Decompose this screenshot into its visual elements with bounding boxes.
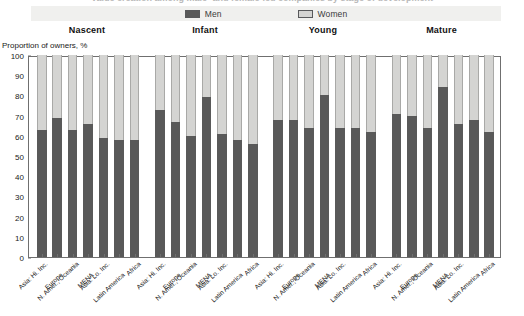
y-tick-label: 30 bbox=[0, 193, 24, 202]
stacked-bar bbox=[155, 55, 165, 257]
stacked-bar bbox=[304, 55, 314, 257]
x-tick-mark bbox=[325, 254, 326, 257]
bar-segment-men bbox=[438, 87, 448, 257]
x-tick-mark bbox=[237, 254, 238, 257]
stage-header-infant: Infant bbox=[146, 25, 264, 37]
chart-title: Value creation among male- and female-le… bbox=[0, 0, 524, 3]
bar-segment-men bbox=[171, 122, 181, 257]
x-tick-mark bbox=[371, 254, 372, 257]
legend-swatch-women-icon bbox=[298, 10, 313, 18]
plot-area bbox=[28, 56, 501, 258]
stacked-bar bbox=[366, 55, 376, 257]
stacked-bar bbox=[37, 55, 47, 257]
bar-segment-men bbox=[366, 132, 376, 257]
y-tick-label: 10 bbox=[0, 233, 24, 242]
stacked-bar bbox=[202, 55, 212, 257]
stacked-bar bbox=[186, 55, 196, 257]
x-tick-mark bbox=[474, 254, 475, 257]
x-tick-mark bbox=[104, 254, 105, 257]
bar-segment-men bbox=[351, 128, 361, 257]
stacked-bar bbox=[52, 55, 62, 257]
x-tick-mark bbox=[191, 254, 192, 257]
stage-header-nascent: Nascent bbox=[28, 25, 146, 37]
stacked-bar bbox=[171, 55, 181, 257]
stacked-bar bbox=[438, 55, 448, 257]
stacked-bar bbox=[351, 55, 361, 257]
bar-segment-men bbox=[52, 118, 62, 257]
x-tick-mark bbox=[356, 254, 357, 257]
bar-segment-men bbox=[37, 130, 47, 257]
y-axis-title: Proportion of owners, % bbox=[2, 41, 87, 50]
x-tick-mark bbox=[222, 254, 223, 257]
stage-header-mature: Mature bbox=[382, 25, 501, 37]
bar-segment-men bbox=[289, 120, 299, 257]
x-axis-label: Africa bbox=[124, 260, 141, 277]
stacked-bar bbox=[407, 55, 417, 257]
bar-segment-men bbox=[407, 116, 417, 257]
bar-segment-men bbox=[484, 132, 494, 257]
y-tick-label: 90 bbox=[0, 72, 24, 81]
x-axis-label: Africa bbox=[361, 260, 378, 277]
stacked-bar bbox=[469, 55, 479, 257]
x-tick-mark bbox=[489, 254, 490, 257]
x-tick-mark bbox=[135, 254, 136, 257]
bar-segment-men bbox=[68, 130, 78, 257]
bar-segment-men bbox=[114, 140, 124, 257]
x-tick-mark bbox=[443, 254, 444, 257]
stacked-bar bbox=[289, 55, 299, 257]
legend-label-men: Men bbox=[205, 9, 222, 19]
x-tick-mark bbox=[412, 254, 413, 257]
stacked-bar bbox=[320, 55, 330, 257]
stacked-bar bbox=[484, 55, 494, 257]
bar-segment-men bbox=[392, 114, 402, 257]
legend-item-men: Men bbox=[185, 9, 222, 19]
x-tick-mark bbox=[42, 254, 43, 257]
bar-segment-men bbox=[233, 140, 243, 257]
stacked-bar bbox=[99, 55, 109, 257]
stage-header-young: Young bbox=[264, 25, 382, 37]
x-tick-mark bbox=[278, 254, 279, 257]
x-tick-mark bbox=[458, 254, 459, 257]
bar-segment-men bbox=[320, 95, 330, 257]
bar-segment-men bbox=[335, 128, 345, 257]
stacked-bar bbox=[130, 55, 140, 257]
legend-label-women: Women bbox=[318, 9, 348, 19]
bar-segment-men bbox=[83, 124, 93, 257]
bar-segment-men bbox=[469, 120, 479, 257]
stacked-bar bbox=[273, 55, 283, 257]
x-axis-label: Africa bbox=[479, 260, 496, 277]
stacked-bar bbox=[454, 55, 464, 257]
y-tick-label: 0 bbox=[0, 254, 24, 263]
x-tick-mark bbox=[340, 254, 341, 257]
bar-segment-men bbox=[202, 97, 212, 257]
x-tick-mark bbox=[309, 254, 310, 257]
bar-segment-men bbox=[186, 136, 196, 257]
bar-segment-men bbox=[273, 120, 283, 257]
y-tick-label: 70 bbox=[0, 112, 24, 121]
x-tick-mark bbox=[427, 254, 428, 257]
y-tick-label: 100 bbox=[0, 52, 24, 61]
stacked-bar bbox=[217, 55, 227, 257]
x-tick-mark bbox=[160, 254, 161, 257]
chart-legend: Men Women bbox=[31, 6, 501, 21]
stacked-bar bbox=[335, 55, 345, 257]
stacked-bar bbox=[392, 55, 402, 257]
bar-segment-men bbox=[99, 138, 109, 257]
stacked-bar bbox=[114, 55, 124, 257]
stacked-bar bbox=[248, 55, 258, 257]
x-tick-mark bbox=[119, 254, 120, 257]
stacked-bar bbox=[233, 55, 243, 257]
x-tick-mark bbox=[57, 254, 58, 257]
bar-segment-men bbox=[130, 140, 140, 257]
y-tick-label: 20 bbox=[0, 213, 24, 222]
legend-swatch-men-icon bbox=[185, 10, 200, 18]
y-tick-label: 60 bbox=[0, 132, 24, 141]
bar-segment-men bbox=[248, 144, 258, 257]
chart-root: Value creation among male- and female-le… bbox=[0, 0, 524, 316]
x-tick-mark bbox=[88, 254, 89, 257]
x-tick-mark bbox=[206, 254, 207, 257]
y-tick-label: 50 bbox=[0, 153, 24, 162]
legend-item-women: Women bbox=[298, 9, 348, 19]
bar-segment-men bbox=[304, 128, 314, 257]
stacked-bar bbox=[68, 55, 78, 257]
